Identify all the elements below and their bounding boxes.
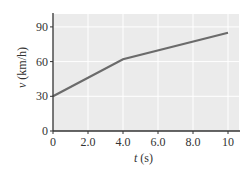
- x-tick-label: 8.0: [186, 135, 201, 149]
- x-tick-label: 2.0: [81, 135, 96, 149]
- plot-area: [53, 14, 239, 131]
- velocity-time-chart: 02.04.06.08.010 0306090 t (s) v (km/h): [0, 0, 250, 171]
- x-axis-label: t (s): [134, 151, 153, 165]
- y-tick-label: 30: [36, 89, 48, 103]
- x-tick-label: 0: [50, 135, 56, 149]
- y-axis-label: v (km/h): [15, 47, 29, 88]
- x-tick-label: 4.0: [116, 135, 131, 149]
- y-tick-label: 90: [36, 20, 48, 34]
- x-tick-label: 6.0: [151, 135, 166, 149]
- x-axis-ticks: 02.04.06.08.010: [50, 131, 234, 149]
- y-tick-label: 0: [42, 124, 48, 138]
- y-axis-ticks: 0306090: [36, 20, 53, 138]
- x-tick-label: 10: [222, 135, 234, 149]
- y-tick-label: 60: [36, 55, 48, 69]
